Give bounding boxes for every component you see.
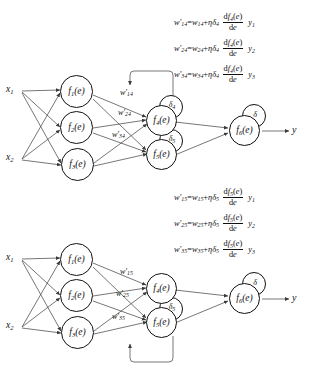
weight-label-w25: w'25 <box>116 289 129 298</box>
formula-w14: w'14=w14+ηδ4 df4(e)de y1 <box>174 13 255 33</box>
node-f2: f2(e) <box>60 279 93 312</box>
formula-w34: w'34=w34+ηδ4 df4(e)de y3 <box>174 65 255 85</box>
weight-label-w34: w'34 <box>112 130 125 139</box>
node-f6: f6(e) <box>229 115 260 146</box>
node-f5: f5(e) <box>146 307 177 338</box>
formula-group-bottom: w'15=w15+ηδ5 df5(e)de y1 w'25=w25+ηδ5 df… <box>0 188 309 278</box>
node-f5: f5(e) <box>146 139 177 170</box>
node-f3: f3(e) <box>61 148 94 181</box>
output-label-y: y <box>292 124 296 135</box>
output-label-y: y <box>292 292 296 303</box>
weight-label-w24: w'24 <box>118 108 131 117</box>
formula-w25: w'25=w25+ηδ5 df5(e)de y2 <box>174 214 255 234</box>
input-label-x2: x2 <box>6 152 13 163</box>
formula-w15: w'15=w15+ηδ5 df5(e)de y1 <box>174 188 255 208</box>
weight-label-w35: w'35 <box>112 312 125 321</box>
node-f3: f3(e) <box>61 316 94 349</box>
formula-group-top: w'14=w14+ηδ4 df4(e)de y1 w'24=w24+ηδ4 df… <box>0 0 309 90</box>
node-f2: f2(e) <box>60 111 93 144</box>
network-panel-top: x1 x2 f1(e) f2(e) f3(e) δ4 f4(e) δ5 f5(e… <box>0 0 309 187</box>
node-f6: f6(e) <box>229 283 260 314</box>
formula-w35: w'35=w35+ηδ5 df5(e)de y3 <box>174 240 255 260</box>
node-f4: f4(e) <box>146 105 177 136</box>
formula-w24: w'24=w24+ηδ4 df4(e)de y2 <box>174 39 255 59</box>
input-label-x2: x2 <box>6 320 13 331</box>
backpropagation-figure: x1 x2 f1(e) f2(e) f3(e) δ4 f4(e) δ5 f5(e… <box>0 0 309 375</box>
network-panel-bottom: x1 x2 f1(e) f2(e) f3(e) f4(e) δ5 f5(e) δ… <box>0 188 309 375</box>
